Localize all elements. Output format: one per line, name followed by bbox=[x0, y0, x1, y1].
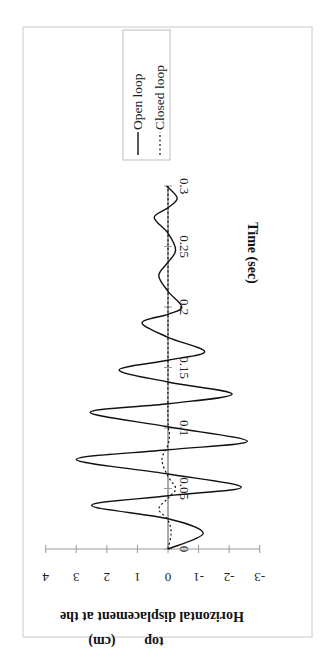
displacement-title-line1: Horizontal displacement at the bbox=[60, 609, 244, 624]
legend-closed-loop-label: Closed loop bbox=[152, 65, 167, 130]
displacement-title-line2: top bbox=[144, 634, 164, 649]
displacement-tick-label: -1 bbox=[193, 570, 204, 585]
displacement-tick-label: -2 bbox=[224, 570, 235, 585]
time-tick-label: 0 bbox=[177, 546, 192, 553]
time-tick-label: 0.3 bbox=[177, 178, 192, 194]
time-tick-label: 0.25 bbox=[177, 235, 192, 258]
displacement-tick-label: 3 bbox=[73, 570, 80, 585]
displacement-title-line3: (cm) bbox=[88, 633, 116, 649]
time-tick-label: 0.05 bbox=[177, 477, 192, 500]
displacement-tick-label: 0 bbox=[165, 570, 172, 585]
displacement-tick-label: 4 bbox=[42, 570, 49, 585]
time-axis-title: Time (sec) bbox=[244, 222, 260, 284]
displacement-tick-label: 2 bbox=[104, 570, 111, 585]
time-tick-label: 0.2 bbox=[177, 299, 192, 315]
legend-open-loop-label: Open loop bbox=[130, 73, 145, 130]
chart: 43210-1-2-3 00.050.10.150.20.250.3 Time … bbox=[0, 0, 331, 659]
time-tick-label: 0.15 bbox=[177, 356, 192, 379]
legend: Open loop Closed loop bbox=[123, 30, 170, 160]
displacement-tick-label: -3 bbox=[254, 570, 265, 585]
displacement-tick-label: 1 bbox=[134, 570, 141, 585]
